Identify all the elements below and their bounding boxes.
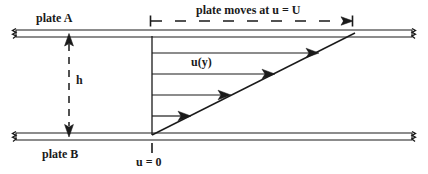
plate-motion-arrow	[151, 16, 354, 27]
couette-flow-figure: plate A plate B plate moves at u = U h u…	[0, 0, 428, 174]
label-plate-a: plate A	[36, 12, 72, 24]
velocity-arrow-3	[152, 69, 275, 79]
label-velocity-profile: u(y)	[191, 56, 212, 68]
velocity-arrow-4	[152, 48, 319, 58]
label-plate-b: plate B	[42, 148, 78, 160]
label-no-slip: u = 0	[136, 156, 162, 168]
velocity-arrow-1	[152, 111, 191, 121]
motion-arrow-head-icon	[341, 17, 353, 25]
velocity-profile	[152, 33, 355, 135]
profile-envelope-line	[152, 33, 355, 135]
bottom-plate	[13, 132, 416, 142]
label-plate-moves: plate moves at u = U	[196, 4, 301, 16]
bottom-plate-body	[16, 133, 412, 140]
label-gap-height: h	[76, 74, 83, 86]
gap-height-dimension	[65, 34, 74, 138]
velocity-arrow-2	[152, 90, 231, 100]
